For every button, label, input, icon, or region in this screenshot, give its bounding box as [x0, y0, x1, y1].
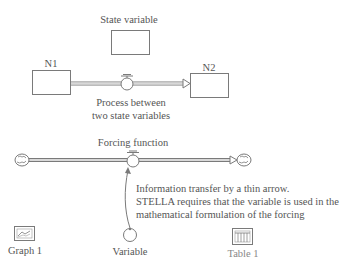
state-variable-stock[interactable]: [111, 30, 150, 55]
sink-cloud-icon: [237, 154, 251, 166]
table-icon[interactable]: [233, 229, 253, 245]
flow-arrowhead-icon: [183, 79, 190, 88]
process-caption-line2: two state variables: [92, 109, 170, 122]
info-connector-arrow[interactable]: [125, 167, 131, 228]
stock-label-n1: N1: [45, 57, 58, 70]
process-valve-icon[interactable]: [121, 75, 133, 91]
stock-n2[interactable]: [190, 73, 229, 98]
flow-arrowhead-icon: [230, 156, 237, 164]
info-description-line1: Information transfer by a thin arrow.: [136, 182, 289, 195]
variable-label: Variable: [113, 245, 148, 258]
state-variable-label: State variable: [100, 13, 157, 26]
info-description-line3: mathematical formulation of the forcing: [136, 208, 305, 221]
forcing-valve-icon[interactable]: [127, 151, 139, 167]
variable-converter-icon[interactable]: [124, 228, 137, 242]
diagram-canvas: [0, 0, 357, 268]
graph-icon[interactable]: [15, 227, 35, 241]
forcing-function-label: Forcing function: [98, 136, 168, 149]
info-description-line2: STELLA requires that the variable is use…: [136, 195, 339, 208]
source-cloud-icon: [15, 154, 29, 166]
process-caption-line1: Process between: [96, 96, 166, 109]
stock-n1[interactable]: [32, 70, 71, 95]
table-label: Table 1: [227, 247, 258, 260]
graph-label: Graph 1: [8, 244, 42, 257]
connector-arrowhead-icon: [125, 167, 131, 174]
